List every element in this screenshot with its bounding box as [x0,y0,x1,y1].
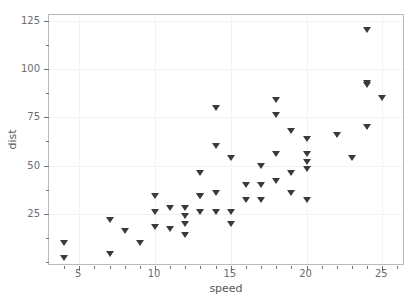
data-point-marker [196,170,204,176]
data-point-marker [303,136,311,142]
y-tick-major [44,166,49,167]
data-point-marker [272,178,280,184]
x-tick-label: 5 [75,268,81,279]
data-point-marker [212,105,220,111]
y-tick-label: 75 [27,111,40,122]
data-point-marker [212,209,220,215]
data-point-marker [348,155,356,161]
data-point-marker [363,27,371,33]
data-point-marker [166,205,174,211]
data-point-marker [60,240,68,246]
y-tick-minor [46,238,49,239]
x-tick-minor [140,266,141,269]
data-point-marker [166,226,174,232]
data-point-marker [151,209,159,215]
x-tick-minor [110,266,111,269]
data-point-marker [272,97,280,103]
y-tick-label: 25 [27,207,40,218]
y-tick-minor [46,141,49,142]
data-point-marker [303,197,311,203]
x-tick-minor [64,266,65,269]
data-point-marker [363,124,371,130]
x-tick-minor [337,266,338,269]
data-point-marker [303,166,311,172]
y-axis-title-text: dist [6,129,19,149]
x-tick-minor [200,266,201,269]
y-tick-major [44,21,49,22]
data-point-marker [272,151,280,157]
x-tick-label: 20 [299,268,312,279]
data-point-marker [227,155,235,161]
data-point-marker [60,255,68,261]
x-axis-title: speed [48,282,404,295]
data-point-marker [303,159,311,165]
data-point-marker [257,197,265,203]
data-point-marker [333,132,341,138]
data-point-marker [181,221,189,227]
x-tick-minor [185,266,186,269]
data-point-marker [287,170,295,176]
data-point-marker [378,95,386,101]
y-tick-major [44,117,49,118]
data-point-marker [106,217,114,223]
data-point-marker [136,240,144,246]
data-point-marker [212,190,220,196]
data-point-marker [363,80,371,86]
data-point-marker [287,190,295,196]
y-tick-major [44,214,49,215]
x-tick-label: 10 [148,268,161,279]
x-tick-label: 15 [223,268,236,279]
y-tick-minor [46,93,49,94]
x-tick-minor [352,266,353,269]
data-point-marker [242,197,250,203]
data-point-marker [257,182,265,188]
x-tick-minor [367,266,368,269]
data-point-marker [227,209,235,215]
data-point-marker [196,209,204,215]
data-point-marker [272,112,280,118]
data-point-marker [242,182,250,188]
y-tick-minor [46,190,49,191]
x-tick-minor [291,266,292,269]
x-tick-minor [170,266,171,269]
data-points-layer [49,15,403,264]
plot-area [48,14,404,265]
data-point-marker [287,128,295,134]
x-tick-minor [125,266,126,269]
y-tick-label: 125 [21,14,40,25]
x-tick-minor [246,266,247,269]
data-point-marker [151,193,159,199]
data-point-marker [196,193,204,199]
y-tick-minor [46,262,49,263]
data-point-marker [227,221,235,227]
x-tick-minor [94,266,95,269]
data-point-marker [121,228,129,234]
y-axis-title: dist [5,14,19,265]
x-tick-minor [322,266,323,269]
x-tick-minor [216,266,217,269]
x-tick-label: 25 [375,268,388,279]
x-tick-minor [276,266,277,269]
data-point-marker [151,224,159,230]
y-tick-label: 100 [21,63,40,74]
x-tick-minor [261,266,262,269]
data-point-marker [181,205,189,211]
data-point-marker [303,151,311,157]
x-tick-minor [397,266,398,269]
scatter-plot-figure: dist speed 510152025255075100125 [0,0,419,301]
data-point-marker [106,251,114,257]
data-point-marker [181,232,189,238]
data-point-marker [257,163,265,169]
y-tick-major [44,69,49,70]
y-tick-label: 50 [27,159,40,170]
data-point-marker [181,213,189,219]
data-point-marker [212,143,220,149]
y-tick-minor [46,45,49,46]
